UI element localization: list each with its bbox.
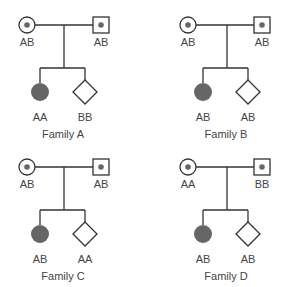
family-b-pedigree: AB AB AB AB Family B	[143, 0, 286, 143]
carrier-dot-icon	[98, 164, 104, 170]
family-d-pedigree: AA BB AB AB Family D	[143, 143, 286, 286]
child-diamond-icon	[73, 80, 97, 104]
carrier-dot-icon	[185, 22, 191, 28]
family-a-pedigree: AB AB AA BB Family A	[0, 0, 143, 143]
family-c-diagram	[0, 143, 143, 287]
family-c-pedigree: AB AB AB AA Family C	[0, 143, 143, 286]
father-genotype: AB	[86, 36, 116, 48]
carrier-dot-icon	[259, 22, 265, 28]
carrier-dot-icon	[259, 164, 265, 170]
father-genotype: AB	[86, 178, 116, 190]
affected-daughter-icon	[194, 225, 212, 243]
family-d-diagram	[143, 143, 286, 287]
child2-genotype: BB	[70, 111, 100, 123]
carrier-dot-icon	[24, 22, 30, 28]
affected-daughter-icon	[194, 83, 212, 101]
child1-genotype: AB	[25, 253, 55, 265]
family-label: Family B	[186, 128, 266, 140]
mother-genotype: AB	[12, 36, 42, 48]
mother-genotype: AB	[173, 36, 203, 48]
child-diamond-icon	[236, 80, 260, 104]
child2-genotype: AA	[70, 253, 100, 265]
father-genotype: BB	[247, 178, 277, 190]
mother-genotype: AA	[173, 178, 203, 190]
family-label: Family A	[23, 128, 103, 140]
carrier-dot-icon	[98, 22, 104, 28]
affected-daughter-icon	[31, 83, 49, 101]
child-diamond-icon	[73, 222, 97, 246]
child1-genotype: AB	[188, 111, 218, 123]
child1-genotype: AB	[188, 253, 218, 265]
family-label: Family C	[23, 270, 103, 282]
father-genotype: AB	[247, 36, 277, 48]
child-diamond-icon	[236, 222, 260, 246]
family-label: Family D	[186, 270, 266, 282]
affected-daughter-icon	[31, 225, 49, 243]
child2-genotype: AB	[233, 253, 263, 265]
child1-genotype: AA	[25, 111, 55, 123]
mother-genotype: AB	[12, 178, 42, 190]
carrier-dot-icon	[24, 164, 30, 170]
carrier-dot-icon	[185, 164, 191, 170]
pedigree-grid: AB AB AA BB Family A AB AB AB AB Family …	[0, 0, 286, 287]
child2-genotype: AB	[233, 111, 263, 123]
